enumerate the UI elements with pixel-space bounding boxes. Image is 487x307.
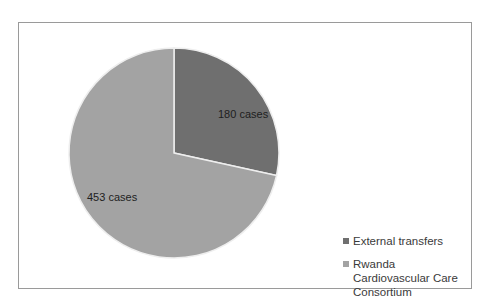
legend: External transfers Rwanda Cardiovascular… [343,234,471,307]
legend-item-external-transfers: External transfers [343,234,471,248]
legend-label: External transfers [353,234,443,248]
legend-label: Rwanda Cardiovascular Care Consortium [353,257,471,299]
legend-swatch-icon [343,238,349,244]
slice-label-rwanda-consortium: 453 cases [87,191,137,203]
slice-label-external-transfers: 180 cases [218,108,268,120]
legend-swatch-icon [343,261,349,267]
legend-item-rwanda-consortium: Rwanda Cardiovascular Care Consortium [343,257,471,299]
